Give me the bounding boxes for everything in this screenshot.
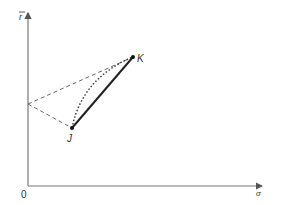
point-j: [70, 126, 74, 130]
label-k: K: [137, 53, 145, 64]
solid-line-jk: [72, 57, 133, 128]
origin-label: 0: [21, 189, 27, 200]
x-axis-label: σ: [256, 189, 262, 198]
dashed-line-to-j: [28, 104, 72, 128]
y-axis-label: r: [19, 12, 23, 22]
diagram-canvas: K J 0 r σ: [0, 0, 289, 205]
point-k: [131, 55, 135, 59]
label-j: J: [66, 133, 73, 144]
